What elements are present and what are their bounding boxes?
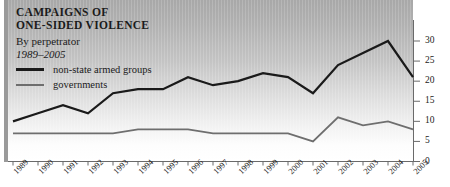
y-axis-tick-label: 20 bbox=[425, 75, 435, 85]
axis-lines bbox=[8, 20, 414, 162]
y-axis-tick-label: 30 bbox=[425, 35, 435, 45]
y-axis-tick-label: 5 bbox=[425, 135, 430, 145]
y-axis-tick-label: 25 bbox=[425, 55, 435, 65]
y-axis-tick-label: 10 bbox=[425, 115, 435, 125]
y-axis-tick-label: 15 bbox=[425, 95, 435, 105]
data-line-governments bbox=[13, 117, 413, 141]
y-axis-ticks bbox=[413, 41, 420, 162]
data-line-non-state-armed-groups bbox=[13, 41, 413, 121]
chart-figure: CAMPAIGNS OF ONE-SIDED VIOLENCE By perpe… bbox=[0, 0, 450, 187]
data-series-layer bbox=[13, 41, 413, 141]
